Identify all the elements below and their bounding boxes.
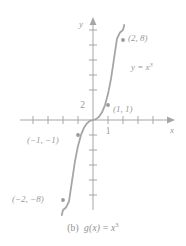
curve-equation-exponent: 3 [149,61,154,68]
point-marker-neg2-neg8 [61,198,65,202]
point-label-2-8: (2, 8) [128,33,148,43]
point-label-neg1-neg1: (−1, −1) [27,135,59,145]
x-axis-arrowhead [167,117,175,124]
y-tick-label-2: 2 [80,100,85,110]
caption-expression-exponent: 3 [115,221,118,228]
function-graph-figure: y x 1 2 (2, 8) (1, 1) (−1, −1) (−2, −8) … [0,0,186,246]
x-tick-label-1: 1 [106,126,111,136]
graph-canvas: y x 1 2 (2, 8) (1, 1) (−1, −1) (−2, −8) … [0,0,186,246]
y-axis-arrowhead [90,17,97,25]
point-marker-2-8 [121,38,125,42]
point-label-1-1: (1, 1) [113,104,133,114]
point-marker-1-1 [106,103,110,107]
y-axis-label: y [78,19,83,29]
caption-part-letter: (b) [67,223,79,233]
curve-equation-base: y = x [130,62,150,72]
point-label-neg2-neg8: (−2, −8) [12,194,44,204]
figure-caption: (b) g(x) = x3 [0,221,186,233]
x-axis-label: x [169,125,174,135]
caption-function-arg: (x) [89,223,100,233]
point-marker-neg1-neg1 [76,133,80,137]
caption-equals: = [103,223,109,233]
curve-equation-label: y = x3 [130,61,154,73]
